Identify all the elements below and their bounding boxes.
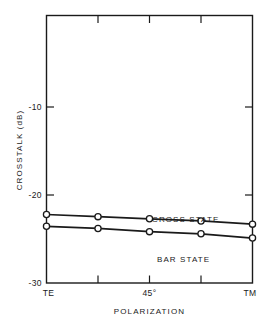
crosstalk-vs-polarization-chart: -10 -20 -30 TE 45° TM POLARIZATION CROSS… (0, 0, 275, 325)
x-tick-label-te: TE (43, 288, 55, 298)
data-point (95, 225, 101, 231)
data-point (249, 221, 255, 227)
data-point (95, 214, 101, 220)
x-tick-label-45deg: 45° (142, 288, 156, 298)
data-point (146, 229, 152, 235)
annotation-bar-state: BAR STATE (157, 255, 210, 264)
y-tick-label-0: -10 (29, 102, 43, 112)
annotation-cross-state: CROSS STATE (152, 215, 219, 224)
x-tick-label-tm: TM (243, 288, 256, 298)
chart-background (0, 0, 275, 325)
y-tick-label-2: -30 (29, 278, 43, 288)
data-point (198, 231, 204, 237)
x-axis-title: POLARIZATION (114, 307, 185, 316)
y-tick-label-1: -20 (29, 190, 43, 200)
y-axis-title: CROSSTALK (dB) (15, 110, 24, 191)
data-point (43, 211, 49, 217)
data-point (249, 235, 255, 241)
data-point (43, 223, 49, 229)
